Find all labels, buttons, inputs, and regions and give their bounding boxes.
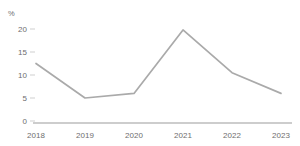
y-axis-tick-label-20: 20 xyxy=(18,25,27,34)
y-axis-tick-label-15: 15 xyxy=(18,48,27,57)
x-axis-tick-label-2020: 2020 xyxy=(125,131,143,140)
data-series-line xyxy=(36,30,281,98)
y-axis-unit-label: % xyxy=(8,9,15,18)
x-axis-tick-label-2019: 2019 xyxy=(76,131,94,140)
x-axis-tick-label-2023: 2023 xyxy=(272,131,290,140)
line-chart: % 20 15 10 5 0 2018 2019 2020 2021 2022 … xyxy=(0,0,300,146)
x-axis-tick-label-2021: 2021 xyxy=(174,131,192,140)
chart-canvas: % 20 15 10 5 0 2018 2019 2020 2021 2022 … xyxy=(0,0,300,146)
y-axis-tick-label-5: 5 xyxy=(23,94,28,103)
y-axis-tick-label-0: 0 xyxy=(23,117,28,126)
y-axis-tick-label-10: 10 xyxy=(18,71,27,80)
x-axis-tick-label-2022: 2022 xyxy=(223,131,241,140)
x-axis-tick-label-2018: 2018 xyxy=(27,131,45,140)
